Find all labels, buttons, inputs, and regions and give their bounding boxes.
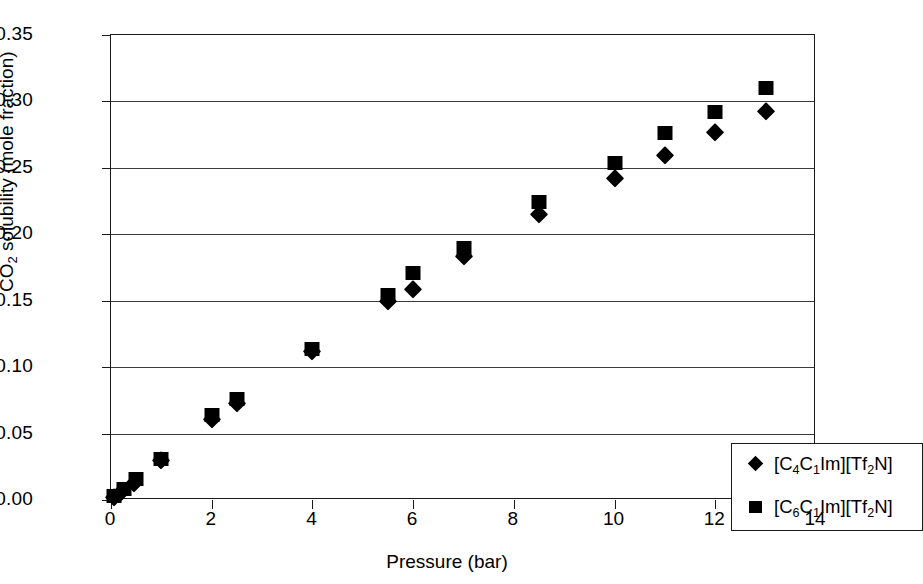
x-tick-label: 2 [205,508,216,530]
data-point-series-1 [456,241,471,255]
gridline [111,367,814,368]
y-tick-mark [102,301,111,302]
data-point-series-1 [229,392,244,406]
x-tick-label: 8 [508,508,519,530]
y-tick-label: 0.25 [0,156,33,178]
y-tick-mark [102,168,111,169]
data-point-series-0 [606,170,624,188]
y-tick-label: 0.05 [0,422,33,444]
gridline [111,434,814,435]
y-tick-mark [102,367,111,368]
data-point-series-1 [204,408,219,422]
legend-item-series-0: [C4C1Im][Tf2N] [746,453,893,475]
data-point-series-0 [656,146,674,164]
x-tick-label: 0 [105,508,116,530]
plot-area: [C4C1Im][Tf2N] [C6C1Im][Tf2N] [110,34,815,499]
data-point-series-1 [305,342,320,356]
data-point-series-1 [708,105,723,119]
y-axis-title-subscript: 2 [5,256,20,263]
x-axis-title-text: Pressure (bar) [386,551,507,572]
data-point-series-1 [406,266,421,280]
data-point-series-1 [532,195,547,209]
y-tick-label: 0.00 [0,488,33,510]
x-axis-title: Pressure (bar) [0,551,846,573]
x-tick-label: 12 [704,508,725,530]
y-tick-label: 0.30 [0,89,33,111]
legend-label-series-0: [C4C1Im][Tf2N] [774,453,893,475]
x-tick-label: 10 [603,508,624,530]
data-point-series-1 [607,156,622,170]
gridline [111,301,814,302]
y-tick-mark [102,234,111,235]
gridline [111,168,814,169]
data-point-series-1 [380,288,395,302]
legend-label-series-1: [C6C1Im][Tf2N] [774,496,893,518]
y-tick-label: 0.10 [0,355,33,377]
legend: [C4C1Im][Tf2N] [C6C1Im][Tf2N] [731,443,923,531]
gridline [111,234,814,235]
y-tick-mark [102,35,111,36]
gridline [111,101,814,102]
diamond-marker-icon [746,455,768,473]
y-tick-label: 0.20 [0,222,33,244]
data-point-series-0 [404,280,422,298]
data-point-series-0 [706,123,724,141]
x-tick-label: 14 [804,508,825,530]
data-point-series-1 [758,81,773,95]
y-tick-mark [102,434,111,435]
x-tick-label: 6 [407,508,418,530]
x-tick-label: 4 [306,508,317,530]
data-point-series-1 [154,452,169,466]
data-point-series-1 [129,472,144,486]
y-tick-label: 0.15 [0,289,33,311]
data-point-series-1 [657,126,672,140]
y-tick-label: 0.35 [0,23,33,45]
square-marker-icon [746,498,768,516]
data-point-series-0 [757,102,775,120]
y-tick-mark [102,101,111,102]
